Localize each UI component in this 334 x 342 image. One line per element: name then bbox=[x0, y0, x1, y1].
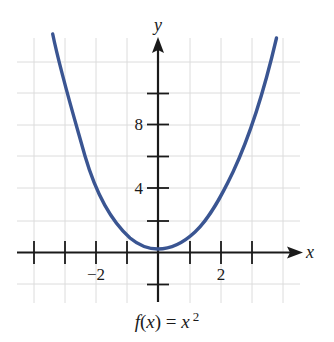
chart-plot: −2 2 8 4 x y bbox=[0, 0, 334, 342]
x-tick-label-2: 2 bbox=[217, 265, 226, 284]
parabola-curve bbox=[53, 34, 277, 249]
y-tick-label-4: 4 bbox=[135, 179, 144, 198]
function-caption: f(x) = x2 bbox=[0, 309, 334, 333]
x-tick-label-neg2: −2 bbox=[87, 265, 105, 284]
x-axis-label: x bbox=[305, 242, 314, 262]
caption-equals: = bbox=[161, 311, 181, 332]
caption-exponent: 2 bbox=[193, 309, 200, 324]
parabola-figure: −2 2 8 4 x y f(x) = x2 bbox=[0, 0, 334, 342]
y-axis-label: y bbox=[152, 15, 162, 35]
y-tick-label-8: 8 bbox=[135, 115, 144, 134]
caption-rhs-variable: x bbox=[181, 311, 189, 332]
caption-variable: x bbox=[146, 311, 154, 332]
